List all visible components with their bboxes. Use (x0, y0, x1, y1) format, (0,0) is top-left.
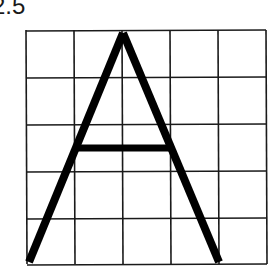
grid-line-v (218, 30, 219, 264)
grid-line-h (26, 30, 266, 31)
grid-letter-figure (0, 0, 275, 269)
grid-line-h (26, 218, 266, 219)
grid-line-v (26, 30, 27, 264)
letter-a (29, 33, 219, 262)
grid-line-h (27, 264, 267, 265)
grid-line-h (26, 124, 266, 125)
grid-line-v (266, 30, 267, 264)
